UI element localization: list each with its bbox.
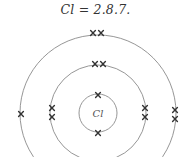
electron-cross-icon (143, 115, 148, 120)
bohr-model-diagram: Cl (0, 0, 179, 157)
electron-cross-icon (93, 62, 98, 67)
electron-cross-icon (96, 93, 101, 98)
electron-cross-icon (173, 117, 178, 122)
electron-cross-icon (19, 112, 24, 117)
electron-cross-icon (91, 31, 96, 36)
electron-cross-icon (96, 131, 101, 136)
electron-cross-icon (143, 106, 148, 111)
electrons (19, 31, 178, 136)
nucleus-label: Cl (93, 108, 104, 119)
electron-cross-icon (173, 108, 178, 113)
shell-outer (20, 35, 176, 157)
electron-shells (20, 35, 176, 157)
